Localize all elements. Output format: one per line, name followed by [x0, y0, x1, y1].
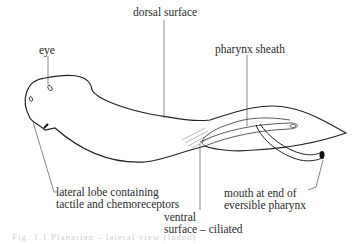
label-ventral-1: ventral: [164, 211, 196, 223]
lateral-lobe-mark: [44, 124, 48, 128]
sheath-end: [290, 125, 296, 128]
eye-2: [29, 96, 34, 102]
figure-caption: Fig. 1.1 Planarian – lateral view (faded…: [12, 232, 196, 242]
label-eye: eye: [39, 44, 55, 56]
label-lateral-lobe-1: lateral lobe containing: [56, 186, 159, 198]
mouth-opening: [320, 151, 325, 159]
label-lateral-lobe-2: tactile and chemoreceptors: [56, 198, 179, 210]
eye-1: [47, 85, 53, 92]
label-mouth-1: mouth at end of: [224, 187, 297, 199]
body-outline: [25, 75, 346, 162]
label-pharynx-sheath: pharynx sheath: [215, 43, 285, 55]
leader-mouth: [308, 160, 323, 190]
pharynx-sheath: [200, 123, 298, 146]
label-mouth-2: eversible pharynx: [224, 199, 306, 211]
leader-lateral-lobe: [33, 122, 58, 192]
label-dorsal-surface: dorsal surface: [133, 6, 197, 18]
